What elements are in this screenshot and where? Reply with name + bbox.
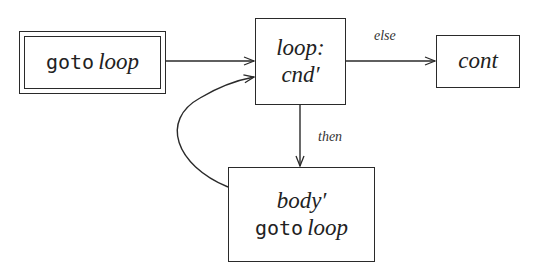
condition-label-line2: cnd′ bbox=[281, 62, 319, 88]
node-entry-text: goto loop bbox=[46, 49, 139, 75]
edge-label-else: else bbox=[374, 28, 396, 44]
node-body: body′ goto loop bbox=[228, 167, 375, 262]
node-loop-condition: loop: cnd′ bbox=[255, 18, 346, 105]
body-label: body′ bbox=[277, 188, 327, 214]
goto-keyword: goto bbox=[255, 216, 303, 240]
loop-label-line1: loop: bbox=[276, 35, 325, 61]
edge-label-then: then bbox=[318, 129, 342, 145]
node-entry-goto-loop: goto loop bbox=[19, 31, 166, 94]
node-cont: cont bbox=[436, 35, 520, 88]
node-entry-inner-border: goto loop bbox=[24, 36, 161, 89]
control-flow-diagram: goto loop loop: cnd′ cont body′ goto loo… bbox=[0, 0, 534, 270]
cont-label: cont bbox=[458, 48, 498, 74]
body-goto-line: goto loop bbox=[255, 215, 348, 241]
goto-keyword: goto bbox=[46, 50, 94, 74]
loop-label: loop bbox=[307, 215, 348, 240]
loop-label: loop bbox=[98, 49, 139, 74]
